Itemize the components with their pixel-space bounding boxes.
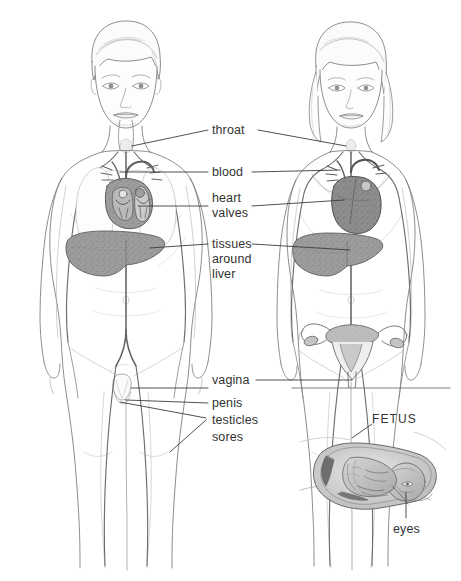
male-liver [66, 231, 165, 276]
fetus-in-womb-inset [300, 432, 446, 509]
label-vagina: vagina [212, 373, 249, 388]
label-testicles: testicles [212, 413, 258, 428]
anatomy-diagram: throat blood heart valves tissues around… [0, 0, 461, 581]
label-heart: heart [212, 191, 241, 206]
label-penis: penis [212, 396, 242, 411]
label-blood: blood [212, 165, 243, 180]
label-eyes: eyes [393, 522, 420, 537]
label-valves: valves [212, 206, 248, 221]
female-liver [293, 233, 383, 276]
label-tissues: tissues [212, 237, 252, 252]
uterus-detail [299, 324, 410, 388]
female-heart [326, 160, 386, 234]
label-liver: liver [212, 267, 235, 282]
male-body-figure [40, 21, 212, 570]
label-around: around [212, 252, 252, 267]
label-fetus: FETUS [372, 412, 417, 427]
illustration-canvas [0, 0, 461, 581]
label-throat: throat [212, 123, 245, 138]
label-sores: sores [212, 430, 243, 445]
